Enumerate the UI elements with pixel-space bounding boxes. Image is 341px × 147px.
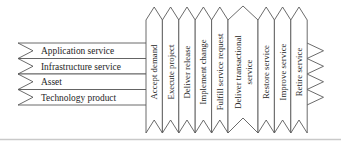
diagram-canvas: Application service Infrastructure servi… [0, 0, 341, 147]
ribbon-label: Accept demand [149, 44, 159, 100]
ribbon-label: Retire service [294, 48, 304, 97]
ribbon-label-line2: service [244, 59, 254, 84]
ribbon-label: Execute project [166, 44, 176, 100]
band-label: Asset [41, 77, 62, 87]
ribbon-label: Implement change [198, 39, 208, 104]
ribbon-label: Deliver release [182, 45, 192, 98]
ribbon-label-line1: Deliver transactional [233, 35, 243, 109]
band-label: Technology product [41, 93, 116, 103]
band-label: Infrastructure service [41, 62, 121, 72]
ribbon-label: Restore service [261, 45, 271, 99]
band-label: Application service [41, 46, 114, 56]
vertical-ribbons: Accept demand Execute project Deliver re… [146, 6, 307, 133]
ribbon-label: Improve service [278, 43, 288, 100]
ribbon-label: Fulfill service request [215, 33, 225, 110]
process-flow-diagram: Application service Infrastructure servi… [0, 0, 341, 147]
